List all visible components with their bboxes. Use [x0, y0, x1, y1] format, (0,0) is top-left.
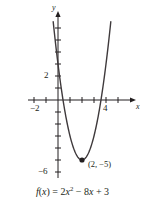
- parabola-curve-main: [53, 22, 111, 160]
- y-tick-label-2: 2: [44, 71, 49, 80]
- y-axis: [55, 11, 60, 178]
- equation-term-x: x: [89, 186, 93, 197]
- equation-exponent: 2: [70, 185, 73, 192]
- equation-paren-close: ): [47, 186, 50, 197]
- coordinate-plot: [0, 0, 145, 185]
- y-tick-label-minus6: −6: [38, 167, 48, 176]
- x-axis-label: x: [136, 103, 140, 111]
- equation-plus-sign: +: [96, 186, 102, 197]
- parabola-figure: y x −2 4 2 −6 (2, −5) f(x) = 2x2 − 8x + …: [0, 0, 145, 208]
- y-axis-label: y: [52, 4, 56, 12]
- equation-const: 3: [104, 186, 109, 197]
- vertex-point: [79, 157, 84, 162]
- x-tick-label-4: 4: [103, 104, 108, 113]
- function-equation: f(x) = 2x2 − 8x + 3: [0, 186, 145, 197]
- equation-minus-sign: −: [76, 186, 82, 197]
- equation-equals: =: [52, 186, 58, 197]
- x-tick-label-minus2: −2: [30, 104, 40, 113]
- vertex-label: (2, −5): [88, 160, 111, 169]
